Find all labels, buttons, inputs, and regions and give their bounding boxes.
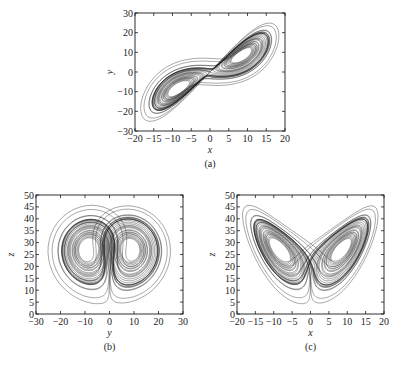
- subplot-b: −30−20−10010203005101520253035404550yz(b…: [5, 190, 188, 354]
- y-tick-label: 20: [24, 261, 34, 272]
- x-tick-label: −20: [53, 316, 69, 327]
- y-tick-label: 5: [230, 297, 235, 308]
- y-tick-label: 10: [225, 285, 235, 296]
- x-tick-label: 5: [226, 133, 231, 144]
- y-tick-label: 20: [123, 27, 133, 38]
- x-tick-label: 0: [107, 316, 112, 327]
- y-tick-label: 25: [24, 249, 34, 260]
- y-tick-label: 50: [24, 190, 34, 201]
- subplot-caption: (b): [104, 341, 116, 353]
- subplot-caption: (a): [204, 158, 215, 170]
- y-axis-label: y: [104, 69, 115, 75]
- x-tick-label: 20: [154, 316, 164, 327]
- x-tick-label: 10: [129, 316, 139, 327]
- attractor-trajectory: [141, 23, 279, 121]
- y-tick-label: 40: [24, 213, 34, 224]
- y-tick-label: 35: [225, 225, 235, 236]
- x-tick-label: −10: [266, 316, 282, 327]
- y-tick-label: 30: [123, 8, 133, 19]
- y-tick-label: 10: [123, 47, 133, 58]
- y-axis-label: z: [5, 252, 16, 257]
- y-tick-label: 15: [225, 273, 235, 284]
- y-tick-label: 30: [24, 237, 34, 248]
- y-tick-label: −30: [117, 126, 133, 137]
- x-tick-label: −15: [248, 316, 264, 327]
- y-tick-label: 20: [225, 261, 235, 272]
- x-tick-label: −5: [186, 133, 197, 144]
- x-tick-label: 15: [361, 316, 371, 327]
- y-tick-label: 50: [225, 190, 235, 201]
- x-tick-label: −15: [146, 133, 162, 144]
- y-tick-label: 15: [24, 273, 34, 284]
- x-tick-label: 20: [280, 133, 290, 144]
- y-tick-label: 45: [225, 201, 235, 212]
- y-tick-label: −10: [117, 86, 133, 97]
- x-tick-label: 0: [208, 133, 213, 144]
- y-tick-label: 0: [29, 309, 34, 320]
- subplot-caption: (c): [305, 341, 316, 353]
- y-tick-label: 0: [230, 309, 235, 320]
- x-tick-label: 0: [308, 316, 313, 327]
- y-tick-label: 40: [225, 213, 235, 224]
- x-tick-label: 5: [326, 316, 331, 327]
- y-axis-label: z: [206, 252, 217, 257]
- attractor-trajectory: [243, 205, 378, 303]
- x-axis-label: y: [106, 327, 112, 338]
- x-tick-label: 20: [379, 316, 389, 327]
- subplot-a: −20−15−10−505101520−30−20−100102030xy(a): [104, 8, 290, 171]
- x-tick-label: 30: [178, 316, 188, 327]
- x-tick-label: 15: [261, 133, 271, 144]
- x-tick-label: 10: [243, 133, 253, 144]
- y-tick-label: 30: [225, 237, 235, 248]
- x-tick-label: −10: [165, 133, 181, 144]
- subplot-c: −20−15−10−50510152005101520253035404550x…: [206, 190, 389, 354]
- y-tick-label: 10: [24, 285, 34, 296]
- x-tick-label: −5: [287, 316, 298, 327]
- x-tick-label: 10: [342, 316, 352, 327]
- y-tick-label: 5: [29, 297, 34, 308]
- y-tick-label: 0: [128, 67, 133, 78]
- attractor-trajectory: [48, 205, 171, 303]
- y-tick-label: 35: [24, 225, 34, 236]
- y-tick-label: 25: [225, 249, 235, 260]
- x-axis-label: x: [207, 144, 213, 155]
- y-tick-label: 45: [24, 201, 34, 212]
- y-tick-label: −20: [117, 106, 133, 117]
- x-axis-label: x: [307, 327, 313, 338]
- x-tick-label: −10: [77, 316, 93, 327]
- figure: −20−15−10−505101520−30−20−100102030xy(a)…: [0, 0, 400, 367]
